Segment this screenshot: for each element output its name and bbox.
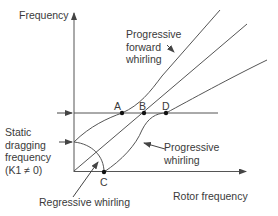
point-c-label: C <box>100 177 108 188</box>
x-axis-label: Rotor frequency <box>173 190 248 203</box>
progressive-whirling-label: Progressive whirling <box>164 141 219 166</box>
point-c-dot <box>102 170 106 174</box>
regressive-pointer-arrow <box>73 162 98 197</box>
regressive-whirling-label: Regressive whirling <box>39 196 130 209</box>
progressive-forward-label: Progressive forward whirling <box>126 28 181 66</box>
point-b-label: B <box>139 101 146 112</box>
y-axis-label: Frequency <box>19 9 69 22</box>
point-a-label: A <box>114 101 121 112</box>
progressive-pointer-arrow <box>144 143 165 149</box>
static-dragging-label: Static dragging frequency (K1 ≠ 0) <box>5 126 51 176</box>
point-d-label: D <box>162 101 170 112</box>
